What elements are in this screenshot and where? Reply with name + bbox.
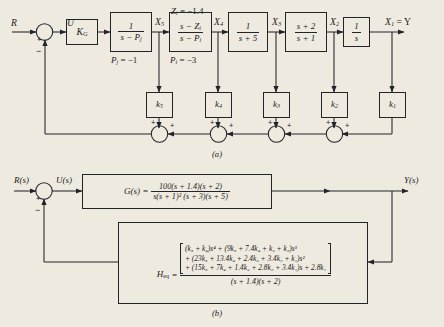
block-gain-k1[interactable]: k1 [379,92,406,118]
figure-canvas: R + − U Zi = −1.4 Pj = −1 Pi = −3 X5 X4 … [0,0,444,327]
signal-label-R: R [11,18,17,28]
summer-a-minus: − [36,47,41,56]
signal-label-Us: U(s) [56,176,72,185]
block-feedback-heq[interactable]: Heq = (k₅ + k₄)s⁴ + (9k₅ + 7.4k₄ + k₃ + … [118,222,368,304]
heq-denominator: (s + 1.4)(s + 2) [180,275,331,286]
forward-gs-numerator: 100(s + 1.4)(s + 2) [151,182,230,191]
block-pole-pj[interactable]: 1 s − Pj [110,12,152,52]
annotation-pj: Pj = −1 [111,56,137,66]
caption-a: (a) [212,149,222,159]
summer-k3-plus-right: + [287,122,291,130]
signal-label-X4: X4 [214,17,223,28]
signal-label-X5: X5 [155,17,164,28]
summer-b-minus: − [35,206,40,215]
block-gain-k2[interactable]: k2 [321,92,348,118]
block-pole-5[interactable]: 1 s + 5 [228,12,268,52]
block-gain-k4[interactable]: k4 [205,92,232,118]
block-gain-k5[interactable]: k5 [146,92,173,118]
signal-label-Ys: Y(s) [404,176,419,185]
feedback-heq-name: Heq [157,270,169,280]
block-forward-gs[interactable]: G(s) = 100(s + 1.4)(s + 2) s(s + 1)² (s … [82,174,272,209]
block-gain-k3[interactable]: k3 [263,92,290,118]
summer-b-plus: + [36,195,40,203]
summer-k5 [151,126,167,142]
summer-k2-plus-right: + [345,122,349,130]
block-gain-kg[interactable]: KG [66,19,98,45]
summer-k2-plus-top: + [326,119,330,127]
signal-label-X2: X2 [330,17,339,28]
signal-label-X1-Y: X1 = Y [385,17,411,28]
block-zero-pole-i[interactable]: s − Zi s − Pi [169,12,212,52]
forward-gs-equals: = [143,187,148,196]
summer-k5-plus-right: + [170,122,174,130]
signal-label-X3: X3 [272,17,281,28]
summer-k4-plus-right: + [229,122,233,130]
forward-gs-denominator: s(s + 1)² (s + 3)(s + 5) [151,191,230,201]
summer-k4-plus-top: + [210,119,214,127]
signal-label-Rs: R(s) [14,176,29,185]
heq-numerator-line-3: + (15k₅ + 7k₄ + 1.4k₃ + 2.8k₂ + 3.4k₁)s … [185,263,326,272]
block-integrator[interactable]: 1 s [343,17,370,47]
heq-numerator-line-2: + (23k₅ + 13.4k₄ + 2.4k₃ + 3.4k₂ + k₁)s² [185,254,326,263]
summer-k3 [268,126,284,142]
feedback-heq-equals: = [172,271,177,280]
forward-gs-name: G(s) [124,187,140,196]
summer-k4 [210,126,226,142]
caption-b: (b) [212,308,222,318]
heq-numerator-line-1: (k₅ + k₄)s⁴ + (9k₅ + 7.4k₄ + k₃ + k₂)s³ [185,244,326,253]
summer-a-plus: + [37,36,41,44]
summer-k3-plus-top: + [268,119,272,127]
summer-k5-plus-top: + [151,119,155,127]
block-lead-2-1[interactable]: s + 2 s + 1 [285,12,327,52]
annotation-pi: Pi = −3 [170,56,196,66]
summer-k2 [326,126,342,142]
